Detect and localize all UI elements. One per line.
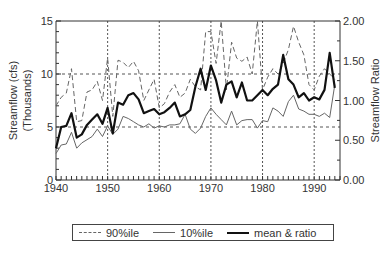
streamflow-chart: 1940195019601970198019900510150.000.501.… xyxy=(0,0,387,254)
legend-item-90pct: 90%ile xyxy=(79,227,139,239)
x-tick-label: 1980 xyxy=(250,182,274,194)
legend-item-10pct: 10%ile xyxy=(153,227,213,239)
legend-label: 90%ile xyxy=(106,227,139,239)
y2-tick-label: 1.50 xyxy=(343,55,364,67)
y-tick-label: 15 xyxy=(41,15,53,27)
data-series xyxy=(56,21,335,154)
y-tick-label: 10 xyxy=(41,68,53,80)
y2-tick-label: 2.00 xyxy=(343,15,364,27)
x-tick-label: 1970 xyxy=(199,182,223,194)
y-axis-subtitle: (Thousands) xyxy=(21,70,33,132)
axes xyxy=(56,21,340,180)
y-tick-label: 5 xyxy=(47,121,53,133)
y2-tick-label: 0.50 xyxy=(343,134,364,146)
y2-tick-label: 0.00 xyxy=(343,174,364,186)
bold-line-swatch-icon xyxy=(227,232,249,234)
thin-line-swatch-icon xyxy=(153,232,175,233)
axis-labels: 1940195019601970198019900510150.000.501.… xyxy=(7,15,381,194)
x-tick-label: 1960 xyxy=(147,182,171,194)
y2-tick-label: 1.00 xyxy=(343,95,364,107)
legend-label: 10%ile xyxy=(180,227,213,239)
legend-label: mean & ratio xyxy=(254,227,316,239)
gridlines xyxy=(56,21,340,180)
legend: 90%ile 10%ile mean & ratio xyxy=(72,224,334,241)
dashed-line-swatch-icon xyxy=(79,232,101,233)
x-tick-label: 1950 xyxy=(95,182,119,194)
y2-axis-title: Streamflow Ratio xyxy=(369,59,381,143)
legend-item-mean: mean & ratio xyxy=(227,227,316,239)
y-axis-title: Streamflow (cfs) xyxy=(7,61,19,140)
y-tick-label: 0 xyxy=(47,174,53,186)
x-tick-label: 1990 xyxy=(302,182,326,194)
series-line-90-ile xyxy=(56,21,335,122)
series-line-10-ile xyxy=(56,85,335,154)
